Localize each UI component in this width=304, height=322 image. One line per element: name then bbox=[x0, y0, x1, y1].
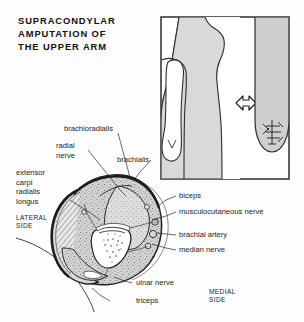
lateral-side-line2: SIDE bbox=[16, 222, 47, 230]
label-musculocutaneous-nerve: musculocutaneous nerve bbox=[179, 207, 263, 217]
label-ecrl-line1: extensor bbox=[16, 168, 72, 178]
label-brachialis: brachialis bbox=[117, 155, 149, 165]
leader-triceps bbox=[92, 288, 110, 301]
label-medial-side: MEDIAL SIDE bbox=[209, 288, 236, 304]
anatomy-figure: SUPRACONDYLAR AMPUTATION OF THE UPPER AR… bbox=[0, 0, 304, 322]
label-extensor-carpi-radialis-longus: extensor carpi radialis longus bbox=[16, 168, 72, 206]
label-ecrl-line4: longus bbox=[16, 197, 72, 207]
medial-side-line1: MEDIAL bbox=[209, 288, 236, 296]
figure-svg bbox=[0, 0, 304, 322]
label-ecrl-line2: carpi bbox=[16, 178, 72, 188]
label-brachial-artery: brachial artery bbox=[179, 230, 227, 240]
label-ecrl-line3: radialis bbox=[16, 187, 72, 197]
label-median-nerve: median nerve bbox=[179, 245, 225, 255]
label-biceps: biceps bbox=[179, 191, 201, 201]
leader-biceps bbox=[158, 196, 176, 206]
label-radial-nerve: radial nerve bbox=[56, 141, 96, 160]
label-brachioradialis: brachioradialis bbox=[64, 124, 113, 134]
label-triceps: triceps bbox=[136, 296, 158, 306]
median-nerve-bundle bbox=[149, 230, 156, 237]
medial-side-line2: SIDE bbox=[209, 296, 236, 304]
label-lateral-side: LATERAL SIDE bbox=[16, 214, 47, 230]
label-radial-nerve-line2: nerve bbox=[56, 151, 96, 161]
lateral-side-line1: LATERAL bbox=[16, 214, 47, 222]
label-radial-nerve-line1: radial bbox=[56, 141, 96, 151]
label-ulnar-nerve: ulnar nerve bbox=[136, 278, 174, 288]
musculocutaneous-nerve-bundle bbox=[145, 205, 150, 210]
radial-nerve-bundle bbox=[82, 210, 86, 214]
inset-panel bbox=[161, 17, 289, 179]
